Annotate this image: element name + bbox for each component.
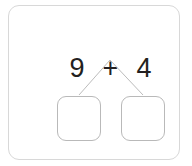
second-addend: 4	[136, 53, 152, 83]
answer-box-left[interactable]	[57, 96, 101, 141]
spacer-1	[86, 53, 103, 83]
spacer-2	[119, 53, 136, 83]
first-addend: 9	[70, 53, 86, 83]
plus-operator-icon: +	[103, 53, 120, 83]
answer-box-right[interactable]	[121, 96, 165, 141]
